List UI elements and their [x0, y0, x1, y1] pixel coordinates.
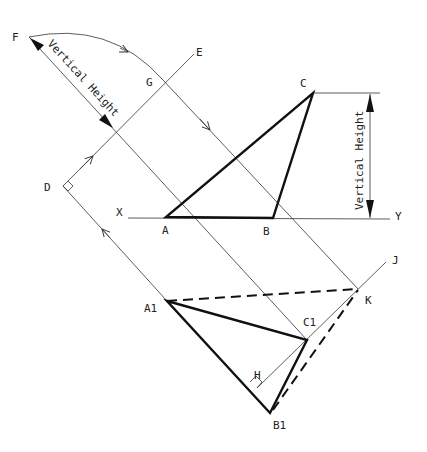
label-f: F: [12, 31, 19, 44]
triangle-a1b1c1: [167, 301, 307, 413]
label-j: J: [392, 254, 399, 267]
vertical-height-label-diagonal: Vertical Height: [45, 37, 122, 119]
arrow-icon: [102, 229, 110, 238]
label-y: Y: [395, 210, 402, 223]
b1-k-dashed: [273, 290, 358, 410]
label-b: B: [263, 225, 270, 238]
vertical-height-label-right: Vertical Height: [353, 111, 366, 210]
arrow-icon: [80, 156, 93, 169]
label-g: G: [146, 76, 153, 89]
label-d: D: [44, 181, 51, 194]
arrow-icon: [200, 119, 210, 130]
arrowhead-icon: [366, 94, 374, 112]
diagram-canvas: F E G C D X Y A B J K A1 C1 H B1 Vertica…: [0, 0, 427, 452]
a1-k-dashed: [167, 289, 358, 301]
right-angle-mark-d: [63, 181, 73, 191]
d-a1-line: [63, 186, 167, 301]
label-e: E: [196, 46, 203, 59]
g-k-line: [163, 80, 358, 289]
label-c1: C1: [303, 316, 316, 329]
vertical-height-dimension-right: [366, 94, 374, 218]
h-j-line: [257, 262, 386, 388]
label-a1: A1: [144, 302, 157, 315]
arrowhead-icon: [30, 38, 44, 51]
label-b1: B1: [273, 419, 286, 432]
triangle-abc: [166, 93, 313, 218]
label-a: A: [162, 224, 169, 237]
arrowhead-icon: [366, 200, 374, 218]
label-h: H: [254, 369, 261, 382]
label-k: K: [365, 294, 372, 307]
label-x: X: [116, 206, 123, 219]
label-c: C: [300, 77, 307, 90]
swing-arc: [29, 33, 163, 80]
